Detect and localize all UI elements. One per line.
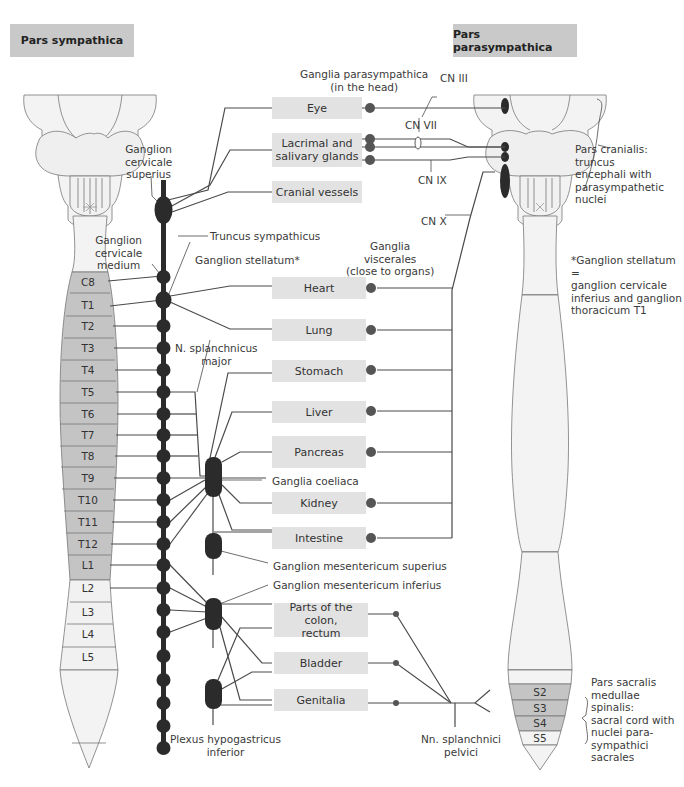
segment-l5: L5 bbox=[68, 651, 108, 663]
organ-heart: Heart bbox=[272, 277, 366, 299]
organ-bladder: Bladder bbox=[274, 652, 368, 674]
label-nn-splanchnici-pelvici: Nn. splanchnici pelvici bbox=[421, 733, 501, 758]
organ-kidney: Kidney bbox=[272, 492, 366, 514]
segment-t12: T12 bbox=[68, 538, 108, 550]
label-cn-x: CN X bbox=[421, 215, 447, 228]
organ-lacrimal-salivary-glands: Lacrimal and salivary glands bbox=[272, 133, 362, 167]
sympathetic-fibers bbox=[108, 108, 272, 725]
label-ganglion-mesentericum-superius: Ganglion mesentericum superius bbox=[273, 560, 447, 573]
organ-liver: Liver bbox=[272, 401, 366, 423]
segment-t6: T6 bbox=[68, 408, 108, 420]
segment-l4: L4 bbox=[68, 628, 108, 640]
segment-s3: S3 bbox=[520, 702, 560, 714]
segment-t7: T7 bbox=[68, 429, 108, 441]
segment-t8: T8 bbox=[68, 450, 108, 462]
segment-t4: T4 bbox=[68, 364, 108, 376]
segment-t5: T5 bbox=[68, 386, 108, 398]
segment-t2: T2 bbox=[68, 320, 108, 332]
label-n-splanchnicus-major: N. splanchnicus major bbox=[175, 342, 258, 367]
label-plexus-hypogastricus-inferior: Plexus hypogastricus inferior bbox=[170, 733, 281, 758]
organ-intestine: Intestine bbox=[272, 527, 366, 549]
parasympathetic-fibers bbox=[362, 97, 610, 744]
label-ganglion-cervicale-superius: Ganglion cervicale superius bbox=[125, 143, 172, 181]
ganglion-cervicale-superius bbox=[155, 196, 173, 224]
header-pars-parasympathica: Pars parasympathica bbox=[453, 24, 577, 57]
label-cn-iii: CN III bbox=[440, 72, 468, 85]
label-ganglia-coeliaca: Ganglia coeliaca bbox=[272, 475, 359, 488]
label-ganglion-mesentericum-inferius: Ganglion mesentericum inferius bbox=[273, 579, 441, 592]
label-ganglia-viscerales: Ganglia viscerales (close to organs) bbox=[346, 240, 434, 278]
ganglion-mesentericum-inferius bbox=[205, 598, 222, 630]
organ-pancreas: Pancreas bbox=[272, 436, 366, 468]
segment-t3: T3 bbox=[68, 342, 108, 354]
label-ganglion-stellatum: Ganglion stellatum* bbox=[195, 254, 300, 267]
label-cn-ix: CN IX bbox=[418, 174, 447, 187]
ganglion-mesentericum-superius bbox=[205, 533, 222, 559]
label-ganglia-parasympathica: Ganglia parasympathica (in the head) bbox=[300, 68, 428, 93]
label-pars-cranialis: Pars cranialis: truncus encephali with p… bbox=[575, 143, 664, 206]
header-pars-sympathica: Pars sympathica bbox=[10, 24, 134, 57]
segment-t11: T11 bbox=[68, 516, 108, 528]
plexus-hypogastricus-inferior bbox=[205, 679, 222, 709]
segment-t1: T1 bbox=[68, 299, 108, 311]
parasympathetic-ganglia bbox=[365, 103, 399, 706]
segment-t10: T10 bbox=[68, 494, 108, 506]
label-stellatum-note: *Ganglion stellatum = ganglion cervicale… bbox=[571, 254, 684, 317]
segment-l2: L2 bbox=[68, 582, 108, 594]
organ-eye: Eye bbox=[272, 97, 362, 119]
organ-colon-rectum: Parts of the colon, rectum bbox=[274, 603, 368, 637]
segment-t9: T9 bbox=[68, 472, 108, 484]
label-pars-sacralis: Pars sacralis medullae spinalis: sacral … bbox=[591, 676, 684, 764]
label-truncus-sympathicus: Truncus sympathicus bbox=[210, 230, 320, 243]
segment-l1: L1 bbox=[68, 559, 108, 571]
organ-lung: Lung bbox=[272, 319, 366, 341]
segment-l3: L3 bbox=[68, 606, 108, 618]
ganglia-coeliaca bbox=[205, 457, 222, 497]
segment-c8: C8 bbox=[68, 276, 108, 288]
organ-genitalia: Genitalia bbox=[274, 689, 368, 711]
organ-stomach: Stomach bbox=[272, 360, 366, 382]
segment-s2: S2 bbox=[520, 686, 560, 698]
autonomic-nervous-system-diagram: Pars sympathica Pars parasympathica Eye … bbox=[0, 0, 684, 787]
label-ganglion-cervicale-medium: Ganglion cervicale medium bbox=[95, 234, 142, 272]
segment-s4: S4 bbox=[520, 717, 560, 729]
organ-cranial-vessels: Cranial vessels bbox=[272, 181, 362, 203]
segment-s5: S5 bbox=[520, 732, 560, 744]
label-cn-vii: CN VII bbox=[405, 119, 437, 132]
